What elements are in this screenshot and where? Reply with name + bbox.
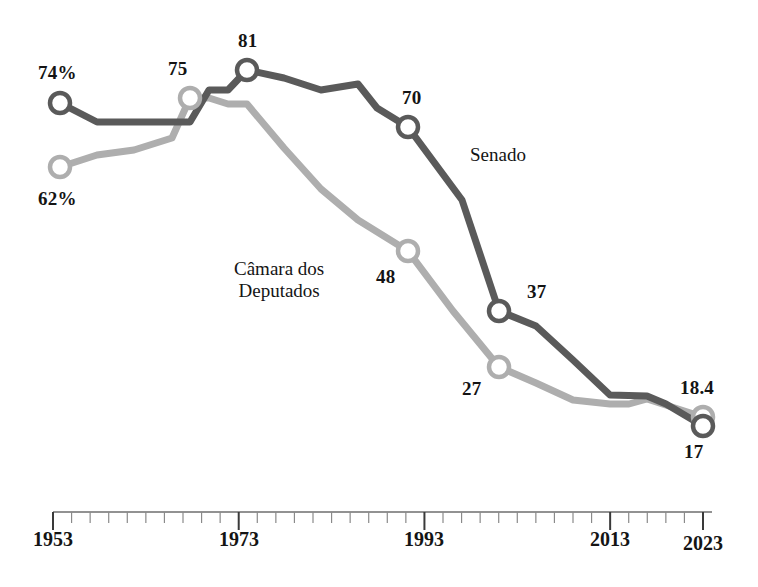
value-label-senado-1953: 74% bbox=[38, 62, 77, 84]
data-point-senado-1999 bbox=[489, 301, 509, 321]
x-tick-label-2013: 2013 bbox=[590, 528, 630, 551]
data-point-senado-2023 bbox=[693, 416, 713, 436]
value-label-senado-1991: 70 bbox=[402, 87, 421, 109]
chart-container: 1953 1973 1993 2013 2023 74% 81 70 37 17… bbox=[0, 0, 758, 587]
x-tick-label-1953: 1953 bbox=[33, 528, 73, 551]
value-label-camara-2023: 18.4 bbox=[680, 377, 714, 399]
data-point-camara-1953 bbox=[50, 157, 70, 177]
value-label-camara-1971: 75 bbox=[168, 58, 187, 80]
x-tick-label-2023: 2023 bbox=[683, 532, 723, 555]
line-chart-plot bbox=[0, 0, 758, 587]
series-line-senado bbox=[60, 70, 703, 426]
value-label-senado-1999: 37 bbox=[527, 281, 546, 303]
x-tick-label-1993: 1993 bbox=[404, 528, 444, 551]
data-point-camara-1991 bbox=[398, 241, 418, 261]
data-point-senado-1953 bbox=[50, 93, 70, 113]
series-annotation-senado: Senado bbox=[470, 144, 526, 166]
series-annotation-camara-line1: Câmara dos bbox=[234, 258, 324, 279]
series-line-camara bbox=[60, 98, 703, 417]
series-annotation-camara: Câmara dos Deputados bbox=[234, 258, 324, 303]
value-label-senado-2023: 17 bbox=[684, 441, 703, 463]
series-annotation-camara-line2: Deputados bbox=[238, 280, 319, 301]
data-point-senado-1975 bbox=[237, 60, 257, 80]
value-label-camara-1953: 62% bbox=[38, 188, 77, 210]
value-label-camara-1999: 27 bbox=[462, 378, 481, 400]
data-point-camara-1999 bbox=[489, 357, 509, 377]
value-label-senado-1975: 81 bbox=[238, 30, 257, 52]
data-point-camara-1971 bbox=[180, 88, 200, 108]
value-label-camara-1991: 48 bbox=[376, 266, 395, 288]
data-point-senado-1991 bbox=[398, 117, 418, 137]
x-tick-label-1973: 1973 bbox=[219, 528, 259, 551]
